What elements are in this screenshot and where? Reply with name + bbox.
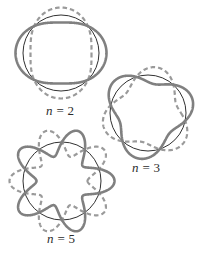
panel-label-n3-value: 3 <box>154 160 161 175</box>
panel-n2 <box>16 8 107 99</box>
panel-label-n5-equals: = <box>57 231 65 246</box>
panel-label-n3-equals: = <box>142 160 150 175</box>
panel-label-n2-variable: n <box>46 103 53 118</box>
panel-label-n5-value: 5 <box>69 231 76 246</box>
panel-label-n2-equals: = <box>56 103 64 118</box>
panel-label-n5-variable: n <box>47 231 54 246</box>
panel-label-n3-variable: n <box>132 160 139 175</box>
solid-curve-n5 <box>18 131 114 232</box>
panel-label-n2-value: 2 <box>68 103 75 118</box>
solid-curve-n3 <box>109 76 193 159</box>
panel-label-n5: n = 5 <box>47 231 75 247</box>
panel-label-n2: n = 2 <box>46 103 74 119</box>
dashed-curve-n5 <box>10 131 106 232</box>
panel-n3 <box>103 67 193 159</box>
panel-n5 <box>10 131 115 232</box>
curve-figure-svg <box>0 0 202 253</box>
reference-circle-n5 <box>23 142 101 220</box>
panel-label-n3: n = 3 <box>132 160 160 176</box>
panels-group <box>10 8 194 232</box>
figure-container: n = 2 n = 3 n = 5 <box>0 0 202 253</box>
